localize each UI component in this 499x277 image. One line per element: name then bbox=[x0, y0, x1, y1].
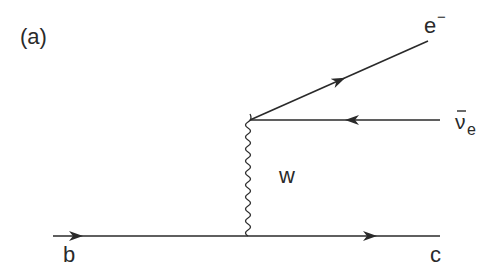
electron-symbol: e bbox=[424, 13, 436, 38]
antineutrino-symbol: ν bbox=[455, 110, 466, 133]
b-quark-label: b bbox=[63, 242, 75, 267]
c-quark-label: c bbox=[430, 242, 441, 267]
electron-label: e − bbox=[424, 8, 446, 38]
w-boson-line bbox=[246, 114, 252, 236]
electron-line bbox=[250, 41, 428, 120]
feynman-diagram: (a) b c w e − ν e bbox=[0, 0, 499, 277]
panel-label: (a) bbox=[20, 24, 47, 49]
antineutrino-subscript: e bbox=[467, 121, 476, 138]
antineutrino-label: ν e bbox=[455, 110, 476, 138]
electron-charge: − bbox=[437, 8, 446, 25]
w-boson-label: w bbox=[278, 163, 295, 188]
